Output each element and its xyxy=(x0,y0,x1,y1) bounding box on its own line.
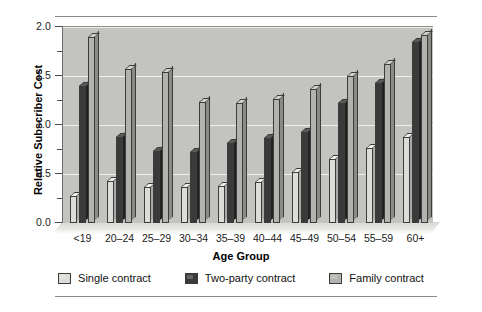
bar xyxy=(329,159,336,223)
bar-face xyxy=(384,64,391,223)
bar-face xyxy=(227,143,234,223)
bar-face xyxy=(273,99,280,223)
bar xyxy=(421,35,428,223)
y-tick xyxy=(55,173,62,174)
bar-face xyxy=(88,37,95,223)
y-tick-label: 2.0 xyxy=(36,20,51,32)
bar-side xyxy=(428,28,432,220)
x-tick-label: 25–29 xyxy=(142,232,171,244)
bar xyxy=(366,148,373,223)
x-tick-label: 50–54 xyxy=(327,232,356,244)
bar-face xyxy=(310,89,317,223)
y-axis: Relative Subscriber Cost 0.00.51.01.52.0 xyxy=(0,0,62,312)
y-tick xyxy=(55,222,62,223)
bar-face xyxy=(70,196,77,223)
bar-side xyxy=(317,82,321,220)
legend: Single contractTwo-party contractFamily … xyxy=(0,272,482,284)
y-tick xyxy=(55,124,62,125)
bar xyxy=(255,182,262,223)
y-tick-minor xyxy=(57,51,62,52)
bar-side xyxy=(206,96,210,220)
bar-face xyxy=(79,86,86,223)
bar xyxy=(162,72,169,223)
bar-face xyxy=(153,151,160,223)
bar-face xyxy=(125,69,132,223)
bar xyxy=(190,152,197,223)
bar-face xyxy=(255,182,262,223)
bar-face xyxy=(264,138,271,223)
bar-face xyxy=(218,186,225,223)
x-tick-label: 30–34 xyxy=(179,232,208,244)
bar xyxy=(375,83,382,223)
bar xyxy=(153,151,160,223)
bar-face xyxy=(329,159,336,223)
bar xyxy=(88,37,95,223)
bar xyxy=(181,187,188,223)
legend-item[interactable]: Single contract xyxy=(58,272,151,284)
bar xyxy=(227,143,234,223)
bar-face xyxy=(412,42,419,223)
y-tick-label: 1.0 xyxy=(36,118,51,130)
bar-side xyxy=(243,97,247,220)
y-tick-label: 0.0 xyxy=(36,216,51,228)
bar xyxy=(403,137,410,223)
bar xyxy=(273,99,280,223)
bar xyxy=(264,138,271,223)
top-rule xyxy=(55,16,437,17)
bar xyxy=(218,186,225,223)
bar xyxy=(144,187,151,223)
bar xyxy=(125,69,132,223)
bar-side xyxy=(132,63,136,220)
bar-face xyxy=(236,103,243,223)
bar xyxy=(338,103,345,223)
bar-side xyxy=(354,70,358,220)
bar-side xyxy=(391,58,395,220)
bar xyxy=(384,64,391,223)
x-tick-label: 20–24 xyxy=(105,232,134,244)
x-tick-label: 55–59 xyxy=(364,232,393,244)
legend-label: Family contract xyxy=(349,272,424,284)
bar-face xyxy=(421,35,428,223)
bar-face xyxy=(116,137,123,223)
bar-side xyxy=(280,92,284,220)
plot-area xyxy=(62,26,433,223)
y-tick xyxy=(55,75,62,76)
legend-label: Single contract xyxy=(78,272,151,284)
bar-face xyxy=(181,187,188,223)
bar-face xyxy=(199,102,206,223)
y-tick-label: 0.5 xyxy=(36,167,51,179)
bar-face xyxy=(338,103,345,223)
bar xyxy=(412,42,419,223)
bar-face xyxy=(292,172,299,223)
bar xyxy=(70,196,77,223)
bar-side xyxy=(95,30,99,220)
bar xyxy=(301,132,308,223)
x-tick-label: 35–39 xyxy=(216,232,245,244)
bar xyxy=(107,181,114,223)
bar xyxy=(79,86,86,223)
gridline xyxy=(63,76,433,77)
figure: Relative Subscriber Cost 0.00.51.01.52.0… xyxy=(0,0,482,312)
bar-face xyxy=(144,187,151,223)
bar-face xyxy=(403,137,410,223)
legend-swatch-icon xyxy=(58,273,71,284)
bar-side xyxy=(169,66,173,220)
gridline xyxy=(63,27,433,28)
x-tick-label: 40–44 xyxy=(253,232,282,244)
legend-item[interactable]: Family contract xyxy=(329,272,424,284)
x-tick-label: <19 xyxy=(74,232,92,244)
legend-swatch-icon xyxy=(185,273,198,284)
bar xyxy=(310,89,317,223)
legend-item[interactable]: Two-party contract xyxy=(185,272,295,284)
y-tick-label: 1.5 xyxy=(36,69,51,81)
y-tick-minor xyxy=(57,198,62,199)
bar-face xyxy=(301,132,308,223)
y-tick-minor xyxy=(57,149,62,150)
x-axis-title: Age Group xyxy=(0,250,482,262)
x-tick-label: 60+ xyxy=(407,232,425,244)
bar xyxy=(236,103,243,223)
bar xyxy=(199,102,206,223)
bar-face xyxy=(107,181,114,223)
bar-face xyxy=(375,83,382,223)
y-tick-minor xyxy=(57,100,62,101)
